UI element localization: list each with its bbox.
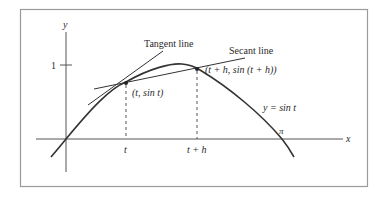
point-t-label: (t, sin t) [132, 87, 164, 99]
secant-line-label: Secant line [229, 45, 274, 56]
sine-curve [51, 64, 294, 157]
tangent-line-label: Tangent line [144, 38, 194, 49]
x-axis-label: x [345, 133, 351, 144]
curve-label: y = sin t [262, 102, 296, 113]
y-axis-label: y [62, 19, 68, 30]
x-tick-t-label: t [124, 144, 127, 155]
y-tick-label: 1 [51, 60, 56, 71]
figure-frame [21, 10, 368, 187]
point-t [124, 81, 128, 85]
figure: y 1 x π Tangent line Secant line (t, sin… [0, 0, 388, 198]
x-tick-t-plus-h-label: t + h [187, 144, 207, 155]
pi-label: π [279, 126, 284, 136]
diagram-canvas: y 1 x π Tangent line Secant line (t, sin… [0, 0, 388, 198]
point-t-plus-h-label: (t + h, sin (t + h)) [205, 64, 277, 76]
point-t-plus-h [195, 67, 199, 71]
